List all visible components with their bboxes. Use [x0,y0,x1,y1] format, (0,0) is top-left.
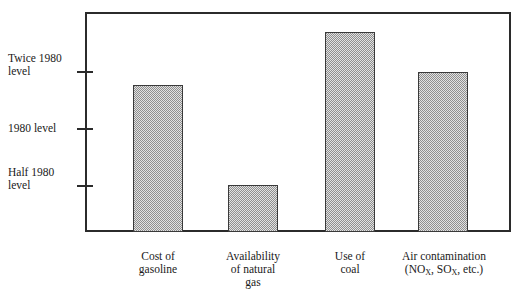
x-label-air-contamination-mid: , SO [431,263,451,275]
y-tick-1980-level [77,128,93,130]
x-label-availability-of-natural-gas: Availability of natural gas [203,250,303,289]
bar-use-of-coal [325,32,375,232]
y-tick-label-twice-1980: Twice 1980 level [8,52,76,77]
x-label-cost-of-gasoline: Cost of gasoline [108,250,208,276]
x-label-cost-of-gasoline-line2: gasoline [108,263,208,276]
x-label-air-contamination-sub2: X [452,268,458,277]
x-label-air-contamination-pre: (NO [405,263,425,275]
bar-cost-of-gasoline [133,85,183,232]
x-label-air-contamination-post: , etc.) [457,263,483,275]
y-tick-label-twice-1980-line1: Twice 1980 [8,52,76,65]
y-tick-half-1980-level [77,185,93,187]
x-label-air-contamination-line1: Air contamination [378,250,510,263]
y-tick-label-half-1980: Half 1980 level [8,166,76,191]
x-label-cost-of-gasoline-line1: Cost of [108,250,208,263]
x-label-availability-line2: of natural [203,263,303,276]
x-label-availability-line1: Availability [203,250,303,263]
x-label-air-contamination-sub1: X [425,268,431,277]
y-tick-twice-1980-level [77,71,93,73]
x-label-air-contamination-line2: (NOX, SOX, etc.) [378,263,510,277]
bar-availability-of-natural-gas [228,185,278,232]
y-tick-label-1980: 1980 level [8,122,76,135]
x-label-availability-line3: gas [203,276,303,289]
y-tick-label-half-1980-line2: level [8,179,76,192]
y-tick-label-1980-line1: 1980 level [8,122,76,135]
y-tick-label-twice-1980-line2: level [8,65,76,78]
x-label-air-contamination: Air contamination (NOX, SOX, etc.) [378,250,510,277]
bar-air-contamination [418,72,468,232]
y-tick-label-half-1980-line1: Half 1980 [8,166,76,179]
